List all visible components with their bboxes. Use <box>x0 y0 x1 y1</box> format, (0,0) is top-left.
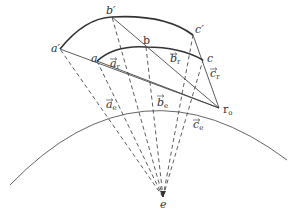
label-a: a <box>91 52 98 65</box>
vector-label-c-r: cr <box>210 67 220 81</box>
label-c-prime: c′ <box>195 23 204 36</box>
dashed-e-b <box>146 47 163 197</box>
vector-label-a-e: ae <box>106 98 117 112</box>
svg-text:ce: ce <box>193 118 203 132</box>
vector-label-b-r: br <box>170 52 181 66</box>
dashed-e-a-prime <box>60 49 163 197</box>
vector-label-b-e: be <box>157 95 168 111</box>
label-e: e <box>160 198 167 211</box>
vector-label-c-e: ce <box>193 118 203 132</box>
geometry-diagram: a′ b′ c′ a b c ro e ar br cr ae be ce <box>0 0 292 217</box>
label-c: c <box>207 52 213 65</box>
label-a-prime: a′ <box>51 42 61 55</box>
svg-text:cr: cr <box>210 67 220 81</box>
outer-arc <box>60 17 193 49</box>
svg-text:ae: ae <box>106 98 117 112</box>
svg-text:br: br <box>170 52 181 66</box>
vector-label-a-r: ar <box>110 57 121 71</box>
earth-surface-arc <box>10 111 287 185</box>
label-b-prime: b′ <box>106 4 116 17</box>
svg-text:ar: ar <box>110 57 121 71</box>
svg-text:be: be <box>157 96 168 110</box>
label-r0: ro <box>223 103 232 117</box>
label-b: b <box>143 34 150 47</box>
